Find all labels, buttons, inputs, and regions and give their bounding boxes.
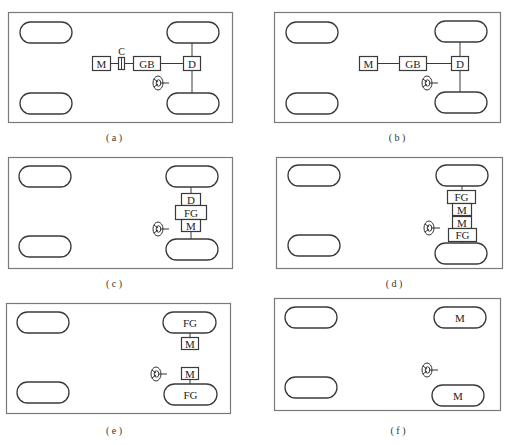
motor-label-bottom: M [185, 368, 195, 380]
caption-f: ( f ) [391, 425, 406, 437]
wheel-rear-left [19, 236, 71, 257]
motor-label: M [97, 58, 107, 70]
motor-label-top: M [457, 204, 467, 216]
gearbox-label: GB [405, 58, 420, 70]
panel-d: FG M M FG [277, 158, 503, 269]
wheel-front-right [166, 166, 218, 187]
caption-b: ( b ) [389, 132, 406, 144]
powertrain-diagram: M C GB D ( a ) M GB D ( b ) [0, 0, 510, 445]
wheel-front-left [20, 22, 72, 43]
wheel-rear-left [17, 382, 69, 403]
panel-b: M GB D [275, 13, 501, 123]
wheel-rear-right [166, 239, 218, 260]
motor-label: M [186, 220, 196, 232]
wheel-label-bottom: FG [183, 389, 197, 401]
panel-c: D FG M [9, 158, 233, 269]
differential-label: D [456, 58, 464, 70]
caption-e: ( e ) [106, 425, 122, 437]
wheel-front-right [167, 22, 219, 43]
wheel-rear-right [435, 243, 487, 264]
wheel-front-left [288, 165, 340, 186]
wheel-front-left [286, 22, 338, 43]
caption-a: ( a ) [106, 132, 122, 144]
motor-label-top: M [185, 338, 195, 350]
caption-d: ( d ) [386, 278, 403, 290]
wheel-front-right [435, 21, 487, 42]
wheel-label-top: FG [183, 317, 197, 329]
wheel-front-right [436, 165, 488, 186]
wheel-rear-left [286, 93, 338, 114]
differential-label: D [188, 58, 196, 70]
wheel-rear-left [285, 377, 337, 398]
fixed-gear-label-bottom: FG [455, 229, 469, 241]
wheel-rear-right [435, 92, 487, 113]
panel-e: FG M M FG [7, 304, 231, 414]
panel-a: M C GB D [9, 13, 233, 123]
wheel-rear-left [20, 93, 72, 114]
fixed-gear-label: FG [184, 207, 198, 219]
wheel-motor-label-bottom: M [453, 390, 463, 402]
panel-f: M M [275, 299, 501, 411]
wheel-rear-left [288, 235, 340, 256]
wheel-front-left [17, 312, 69, 333]
differential-label: D [187, 194, 195, 206]
wheel-rear-right [167, 93, 219, 114]
wheel-motor-label-top: M [455, 312, 465, 324]
clutch-label: C [118, 46, 125, 57]
gearbox-label: GB [139, 58, 154, 70]
wheel-front-left [285, 307, 337, 328]
motor-label-bottom: M [457, 217, 467, 229]
caption-c: ( c ) [106, 278, 122, 290]
fixed-gear-label-top: FG [454, 191, 468, 203]
wheel-front-left [19, 166, 71, 187]
motor-label: M [364, 58, 374, 70]
